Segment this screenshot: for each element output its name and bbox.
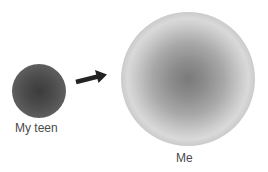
teen-label: My teen <box>15 121 58 135</box>
me-label: Me <box>176 151 193 165</box>
diagram-canvas: My teen Me <box>0 0 268 172</box>
teen-circle <box>12 64 66 118</box>
arrow-icon <box>74 68 110 88</box>
me-circle <box>121 12 255 146</box>
